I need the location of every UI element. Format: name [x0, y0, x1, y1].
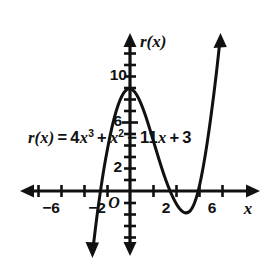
y-tick-label-2: 2 — [113, 158, 122, 175]
equation-term-4: 3 — [182, 128, 191, 146]
x-axis-left-arrowhead — [20, 185, 34, 198]
equation-term-1-variable: x — [80, 128, 88, 147]
origin-label: O — [108, 194, 120, 211]
equation-term-2-sign: + — [97, 128, 107, 146]
x-tick-label-neg2: −2 — [88, 199, 106, 216]
y-axis-top-arrowhead — [124, 33, 137, 47]
curve-right-up-arrowhead — [214, 33, 227, 48]
equation-term-1: 4x3 — [70, 128, 94, 146]
y-axis-label: r(x) — [140, 32, 166, 51]
x-axis-right-arrowhead — [246, 185, 260, 198]
equation-term-3-variable: x — [158, 128, 166, 147]
equation-equals: = — [57, 128, 67, 146]
equation-term-3-sign: − — [127, 128, 137, 146]
equation-term-2: x2 — [110, 128, 124, 146]
x-tick-label-pos2: 2 — [162, 199, 171, 216]
x-tick-label-neg6: −6 — [42, 199, 60, 216]
equation-term-1-exponent: 3 — [88, 127, 94, 138]
equation-function-name: r(x) — [28, 128, 54, 147]
equation-term-4-sign: + — [169, 128, 179, 146]
equation-term-2-exponent: 2 — [118, 127, 124, 138]
y-tick-label-10: 10 — [110, 66, 127, 83]
x-axis-label: x — [243, 199, 253, 218]
x-tick-label-pos6: 6 — [208, 199, 217, 216]
curve-left-down-arrowhead — [86, 242, 100, 258]
equation-label: r(x)=4x3+x2−11x+3 — [28, 128, 192, 146]
equation-term-3: 11x — [140, 128, 166, 146]
y-axis-bottom-arrowhead — [124, 242, 137, 256]
x-axis — [20, 185, 260, 198]
